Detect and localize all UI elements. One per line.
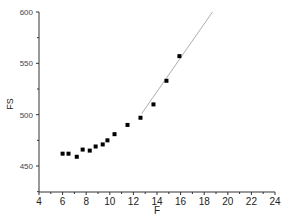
x-tick-label: 6 (60, 196, 66, 207)
data-point-marker (88, 149, 92, 153)
x-axis-title: F (154, 205, 160, 216)
x-tick-label: 18 (199, 196, 211, 207)
x-tick-label: 22 (246, 196, 258, 207)
data-point-marker (67, 152, 71, 156)
x-tick-label: 24 (269, 196, 281, 207)
fit-line-path (142, 12, 213, 114)
data-point-marker (94, 144, 98, 148)
data-point-marker (177, 54, 181, 58)
data-point-marker (113, 132, 117, 136)
y-axis-title: FS (5, 98, 15, 110)
data-point-marker (164, 79, 168, 83)
y-tick-label: 600 (20, 8, 34, 17)
data-point-marker (151, 102, 155, 106)
x-tick-label: 4 (36, 196, 42, 207)
y-tick-label: 450 (20, 162, 34, 171)
x-tick-label: 8 (83, 196, 89, 207)
y-tick-label: 500 (20, 111, 34, 120)
y-tick-label: 550 (20, 59, 34, 68)
fit-line (142, 12, 213, 114)
x-tick-label: 12 (128, 196, 140, 207)
data-point-marker (75, 155, 79, 159)
data-point-marker (105, 138, 109, 142)
data-point-marker (126, 123, 130, 127)
data-point-marker (61, 152, 65, 156)
x-tick-label: 16 (175, 196, 187, 207)
data-points (61, 54, 182, 159)
axes: 4681012141618202224450500550600 (20, 8, 281, 207)
data-point-marker (101, 142, 105, 146)
data-point-marker (138, 116, 142, 120)
scatter-chart: 4681012141618202224450500550600 F FS (0, 0, 288, 221)
data-point-marker (81, 148, 85, 152)
x-tick-label: 10 (104, 196, 116, 207)
x-tick-label: 20 (222, 196, 234, 207)
